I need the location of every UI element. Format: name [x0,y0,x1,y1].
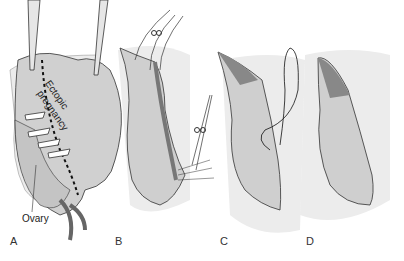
panel-c-drawing [218,48,305,233]
panel-d-drawing [300,50,390,220]
panel-label-c: C [220,235,228,247]
panel-label-b: B [115,235,122,247]
panel-label-d: D [306,235,314,247]
panel-label-a: A [10,235,17,247]
ovary-label: Ovary [22,213,49,224]
panel-b-drawing [118,10,214,211]
